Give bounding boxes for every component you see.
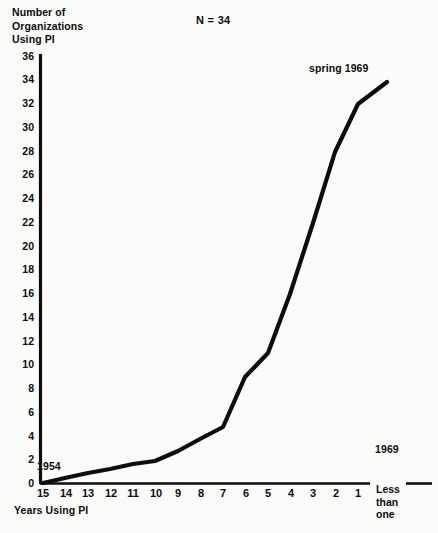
data-line <box>43 82 387 483</box>
chart-canvas: Number of Organizations Using PI N = 34 … <box>0 0 438 533</box>
chart-plot-svg <box>0 0 438 533</box>
